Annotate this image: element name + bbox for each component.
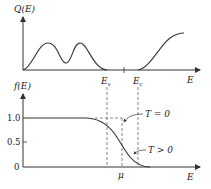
mu-label: μ xyxy=(118,170,124,180)
tick-label-1: 1.0 xyxy=(7,113,21,123)
band-fermi-diagram: Q(E) Ev Ec E f(E) 1.0 0.5 0 μ T = 0 T > … xyxy=(0,0,211,189)
ev-label: Ev xyxy=(100,76,112,87)
tick-label-0: 0 xyxy=(14,162,19,172)
t0-label: T = 0 xyxy=(145,109,170,119)
top-panel: Q(E) Ev Ec E xyxy=(14,4,200,87)
fermi-dirac-curve xyxy=(23,118,150,167)
ec-label: Ec xyxy=(132,76,143,87)
bottom-e-axis-label: E xyxy=(186,172,194,182)
tick-label-0-5: 0.5 xyxy=(7,137,21,147)
conduction-band-dos-curve xyxy=(138,33,184,70)
top-e-axis-label: E xyxy=(186,75,194,85)
valence-band-dos-curve xyxy=(23,43,107,70)
bottom-panel: f(E) 1.0 0.5 0 μ T = 0 T > 0 E xyxy=(7,81,200,182)
tpos-pointer xyxy=(134,150,146,154)
tpos-label: T > 0 xyxy=(148,145,173,155)
t0-pointer xyxy=(124,114,143,122)
q-axis-label: Q(E) xyxy=(14,4,35,14)
f-axis-label: f(E) xyxy=(13,81,31,91)
